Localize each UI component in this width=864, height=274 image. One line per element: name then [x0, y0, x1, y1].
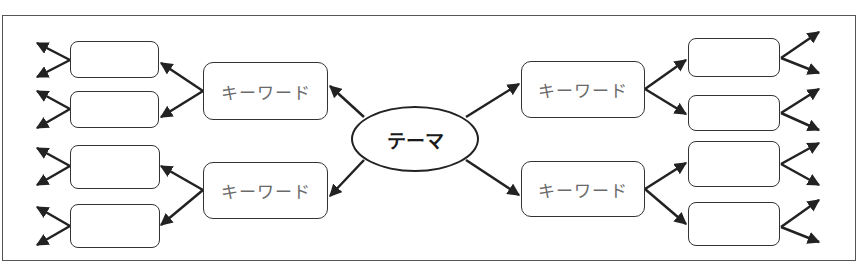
sub-box: [70, 145, 160, 189]
sub-box: [70, 91, 159, 128]
sub-box: [688, 202, 780, 246]
sub-box: [70, 41, 159, 78]
sub-box: [688, 38, 780, 77]
mind-map-diagram: テーマ キーワード キーワード キーワード キーワード: [0, 0, 864, 274]
keyword-node-lower-left: キーワード: [203, 162, 328, 219]
keyword-node-upper-right: キーワード: [521, 61, 645, 118]
sub-box: [688, 141, 780, 187]
theme-node: テーマ: [351, 106, 479, 172]
sub-box: [70, 204, 160, 248]
keyword-node-lower-right: キーワード: [521, 161, 645, 217]
sub-box: [688, 95, 780, 131]
keyword-node-upper-left: キーワード: [203, 62, 328, 120]
